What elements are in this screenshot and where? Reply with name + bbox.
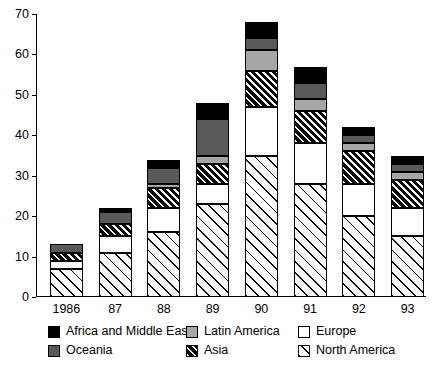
bar-segment-asia[interactable] xyxy=(147,188,180,208)
x-tick-label: 91 xyxy=(303,303,317,316)
legend-label: Latin America xyxy=(204,325,280,338)
legend-item-north[interactable]: North America xyxy=(298,343,396,358)
bar-segment-africa[interactable] xyxy=(99,208,132,212)
bar-segment-latin[interactable] xyxy=(245,50,278,70)
legend-swatch-asia-icon xyxy=(186,345,198,357)
bar-group[interactable]: 90 xyxy=(245,14,278,297)
bar-segment-latin[interactable] xyxy=(391,172,424,180)
bars-layer: 198687888990919293 xyxy=(36,14,426,297)
bar-segment-north[interactable] xyxy=(342,216,375,297)
bar-segment-oceania[interactable] xyxy=(294,83,327,99)
x-tick-label: 87 xyxy=(108,303,122,316)
bar-segment-oceania[interactable] xyxy=(391,164,424,172)
bar-segment-europe[interactable] xyxy=(50,261,83,269)
bar-group[interactable]: 88 xyxy=(147,14,180,297)
x-tick-label: 92 xyxy=(352,303,366,316)
bar-segment-asia[interactable] xyxy=(245,71,278,107)
bar-segment-asia[interactable] xyxy=(99,224,132,236)
legend-swatch-north-icon xyxy=(298,345,310,357)
y-tick-label: 40 xyxy=(15,129,29,142)
legend-item-latin[interactable]: Latin America xyxy=(186,324,298,339)
legend-label: Asia xyxy=(204,344,228,357)
bar-segment-latin[interactable] xyxy=(294,99,327,111)
bar-segment-europe[interactable] xyxy=(99,236,132,252)
legend-row: OceaniaAsiaNorth America xyxy=(48,343,396,358)
bar-segment-latin[interactable] xyxy=(196,156,229,164)
y-tick-label: 30 xyxy=(15,169,29,182)
legend-label: Oceania xyxy=(66,344,113,357)
bar-segment-africa[interactable] xyxy=(342,127,375,135)
bar-group[interactable]: 89 xyxy=(196,14,229,297)
y-tick-label: 10 xyxy=(15,250,29,263)
bar-segment-north[interactable] xyxy=(245,156,278,298)
legend-item-oceania[interactable]: Oceania xyxy=(48,343,186,358)
bar-segment-north[interactable] xyxy=(294,184,327,297)
legend-swatch-oceania-icon xyxy=(48,345,60,357)
x-tick-label: 89 xyxy=(206,303,220,316)
bar-segment-north[interactable] xyxy=(391,236,424,297)
legend-swatch-europe-icon xyxy=(298,326,310,338)
legend-item-asia[interactable]: Asia xyxy=(186,343,298,358)
y-tick-label: 0 xyxy=(22,291,29,304)
y-tick-mark xyxy=(32,297,36,298)
bar-segment-north[interactable] xyxy=(147,232,180,297)
bar-segment-asia[interactable] xyxy=(196,164,229,184)
legend-row: Africa and Middle EastLatin AmericaEurop… xyxy=(48,324,396,339)
bar-segment-asia[interactable] xyxy=(342,151,375,183)
bar-segment-north[interactable] xyxy=(99,253,132,297)
bar-segment-europe[interactable] xyxy=(245,107,278,156)
bar-segment-europe[interactable] xyxy=(196,184,229,204)
y-tick-label: 20 xyxy=(15,210,29,223)
bar-segment-oceania[interactable] xyxy=(147,168,180,184)
legend-label: Africa and Middle East xyxy=(66,325,191,338)
bar-group[interactable]: 87 xyxy=(99,14,132,297)
legend-label: North America xyxy=(316,344,395,357)
bar-group[interactable]: 91 xyxy=(294,14,327,297)
legend-item-europe[interactable]: Europe xyxy=(298,324,396,339)
bar-segment-africa[interactable] xyxy=(147,160,180,168)
bar-group[interactable]: 92 xyxy=(342,14,375,297)
bar-segment-oceania[interactable] xyxy=(196,119,229,155)
bar-group[interactable]: 1986 xyxy=(50,14,83,297)
bar-segment-asia[interactable] xyxy=(294,111,327,143)
bar-segment-oceania[interactable] xyxy=(245,38,278,50)
bar-segment-africa[interactable] xyxy=(391,156,424,164)
bar-segment-oceania[interactable] xyxy=(342,135,375,143)
chart-legend: Africa and Middle EastLatin AmericaEurop… xyxy=(48,324,396,360)
bar-segment-europe[interactable] xyxy=(391,208,424,236)
bar-segment-asia[interactable] xyxy=(50,253,83,261)
bar-segment-africa[interactable] xyxy=(196,103,229,119)
x-tick-label: 1986 xyxy=(52,303,80,316)
legend-label: Europe xyxy=(316,325,356,338)
bar-segment-latin[interactable] xyxy=(342,143,375,151)
y-tick-label: 60 xyxy=(15,48,29,61)
bar-segment-europe[interactable] xyxy=(147,208,180,232)
bar-segment-africa[interactable] xyxy=(245,22,278,38)
stacked-bar-chart: 010203040506070 198687888990919293 Afric… xyxy=(0,0,439,365)
bar-segment-north[interactable] xyxy=(50,269,83,297)
plot-area: 010203040506070 198687888990919293 xyxy=(36,14,426,297)
x-tick-label: 93 xyxy=(401,303,415,316)
bar-segment-oceania[interactable] xyxy=(50,244,83,252)
bar-segment-latin[interactable] xyxy=(147,184,180,188)
bar-group[interactable]: 93 xyxy=(391,14,424,297)
bar-segment-europe[interactable] xyxy=(342,184,375,216)
x-tick-label: 88 xyxy=(157,303,171,316)
legend-swatch-africa-icon xyxy=(48,326,60,338)
legend-item-africa[interactable]: Africa and Middle East xyxy=(48,324,186,339)
x-tick-label: 90 xyxy=(254,303,268,316)
bar-segment-north[interactable] xyxy=(196,204,229,297)
bar-segment-europe[interactable] xyxy=(294,143,327,183)
bar-segment-africa[interactable] xyxy=(294,67,327,83)
y-tick-label: 50 xyxy=(15,89,29,102)
bar-segment-oceania[interactable] xyxy=(99,212,132,224)
y-tick-label: 70 xyxy=(15,8,29,21)
legend-swatch-latin-icon xyxy=(186,326,198,338)
bar-segment-asia[interactable] xyxy=(391,180,424,208)
